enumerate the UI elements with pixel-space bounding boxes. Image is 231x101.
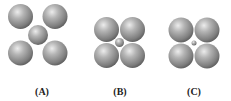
corner-sphere [8,4,33,29]
panel-c-spheres [169,18,220,69]
corner-sphere [43,41,68,66]
panel-a-spheres [8,4,68,66]
corner-sphere [120,43,145,68]
panel-c-label: (C) [187,86,201,97]
panel-a-label: (A) [35,86,49,97]
corner-sphere [94,43,119,68]
corner-sphere [169,44,194,69]
corner-sphere [120,17,145,42]
corner-sphere [8,41,33,66]
corner-sphere [195,44,220,69]
corner-sphere [195,18,220,43]
panel-b-spheres [94,17,145,68]
panel-b-label: (B) [113,86,126,97]
corner-sphere [43,4,68,29]
center-sphere [28,25,48,45]
center-sphere [115,38,124,47]
corner-sphere [169,18,194,43]
corner-sphere [94,17,119,42]
center-sphere [192,41,197,46]
